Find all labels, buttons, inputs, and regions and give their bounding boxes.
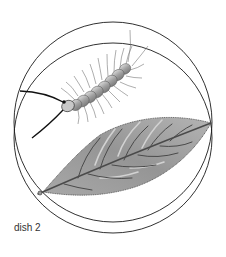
centipede-antenna [32, 110, 63, 138]
centipede [20, 30, 148, 138]
dish-caption: dish 2 [14, 222, 41, 233]
petri-dish-diagram [0, 0, 226, 257]
leaf [38, 117, 211, 195]
leaf-stem-tip [38, 191, 42, 195]
